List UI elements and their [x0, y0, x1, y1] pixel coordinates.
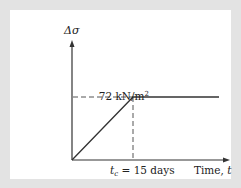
x-axis-arrow-icon	[223, 158, 230, 163]
y-axis-label: Δσ	[64, 25, 79, 36]
x-axis-label: Time, t	[194, 165, 231, 176]
load-curve	[72, 97, 219, 160]
y-axis-arrow-icon	[70, 40, 75, 47]
y-tick-label: 72 kN/m2	[99, 91, 149, 102]
x-tick-label: tc = 15 days	[110, 165, 175, 178]
